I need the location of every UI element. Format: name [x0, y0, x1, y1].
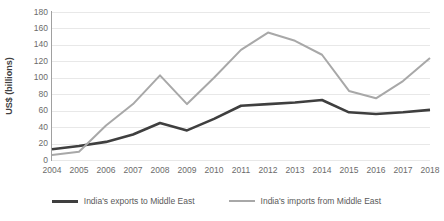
- y-axis-tick-label: 160: [24, 24, 48, 33]
- plot-area: [52, 12, 430, 160]
- y-axis-title: US$ (billions): [2, 6, 16, 166]
- legend-label-exports: India's exports to Middle East: [84, 196, 195, 207]
- x-axis-tick-label: 2015: [334, 165, 364, 176]
- legend-item-imports[interactable]: India's imports from Middle East: [229, 196, 382, 207]
- x-axis-tick-label: 2016: [361, 165, 391, 176]
- series-line-imports: [52, 33, 430, 156]
- y-axis-tick-label: 0: [24, 156, 48, 165]
- x-axis-tick-label: 2006: [91, 165, 121, 176]
- x-axis-tick-label: 2010: [199, 165, 229, 176]
- legend-swatch-imports: [229, 200, 255, 202]
- x-axis-tick-label: 2018: [415, 165, 444, 176]
- legend-item-exports[interactable]: India's exports to Middle East: [52, 196, 195, 207]
- x-axis-tick-label: 2012: [253, 165, 283, 176]
- gridline: [52, 160, 430, 161]
- y-axis-tick-label: 120: [24, 57, 48, 66]
- y-axis-tick-labels: 180160140120100806040200: [20, 12, 48, 160]
- x-axis-tick-labels: 2004200520062007200820092010201120122013…: [52, 165, 430, 177]
- y-axis-tick-label: 140: [24, 40, 48, 49]
- chart-legend: India's exports to Middle East India's i…: [0, 193, 433, 209]
- x-axis-tick-label: 2007: [118, 165, 148, 176]
- x-axis-tick-label: 2005: [64, 165, 94, 176]
- legend-swatch-exports: [52, 200, 78, 203]
- y-axis-tick-label: 20: [24, 139, 48, 148]
- x-axis-tick-label: 2014: [307, 165, 337, 176]
- y-axis-tick-label: 100: [24, 73, 48, 82]
- y-axis-tick-label: 80: [24, 90, 48, 99]
- x-axis-tick-label: 2008: [145, 165, 175, 176]
- y-axis-tick-label: 180: [24, 8, 48, 17]
- x-axis-tick-label: 2004: [37, 165, 67, 176]
- series-line-exports: [52, 100, 430, 149]
- y-axis-tick-label: 60: [24, 106, 48, 115]
- x-axis-tick-label: 2013: [280, 165, 310, 176]
- x-axis-tick-label: 2017: [388, 165, 418, 176]
- series-layer: [52, 12, 430, 160]
- legend-label-imports: India's imports from Middle East: [261, 196, 382, 207]
- x-axis-tick-label: 2011: [226, 165, 256, 176]
- x-axis-tick-label: 2009: [172, 165, 202, 176]
- y-axis-tick-label: 40: [24, 123, 48, 132]
